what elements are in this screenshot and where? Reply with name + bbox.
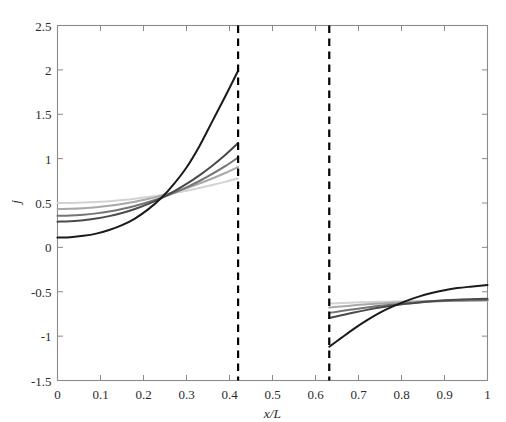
y-tick-label: 1 — [45, 152, 52, 165]
vertical-dashed-boundaries — [238, 26, 329, 381]
y-tick-label: 1.5 — [35, 108, 51, 121]
x-tick-label: 0.6 — [307, 388, 323, 401]
x-tick-label: 0.1 — [92, 388, 108, 401]
y-tick-label: -1.5 — [31, 374, 52, 387]
x-tick-label: 0.4 — [221, 388, 237, 401]
data-curves — [58, 71, 488, 347]
x-tick-label: 0.2 — [135, 388, 151, 401]
x-tick-label: 1 — [484, 388, 491, 401]
y-tick-label: 0.5 — [35, 197, 51, 210]
y-tick-label: 0 — [45, 241, 52, 254]
figure-canvas: 00.10.20.30.40.50.60.70.80.91 -1.5-1-0.5… — [0, 0, 506, 422]
chart-plot-area — [0, 0, 506, 422]
y-tick-label: -0.5 — [31, 285, 52, 298]
x-tick-label: 0 — [54, 388, 61, 401]
x-tick-label: 0.7 — [350, 388, 366, 401]
x-axis-title: x/L — [264, 407, 281, 421]
y-axis-title: j — [9, 200, 23, 204]
y-tick-label: -1 — [41, 330, 52, 343]
x-tick-label: 0.5 — [264, 388, 280, 401]
y-tick-label: 2 — [45, 63, 52, 76]
x-tick-label: 0.3 — [178, 388, 194, 401]
x-tick-label: 0.8 — [393, 388, 409, 401]
y-tick-label: 2.5 — [35, 19, 51, 32]
x-tick-label: 0.9 — [436, 388, 452, 401]
